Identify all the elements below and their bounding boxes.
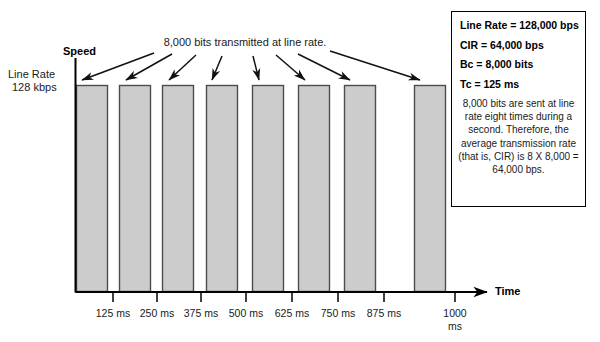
info-box-paragraph: 8,000 bits are sent at line rate eight t… [458,97,579,176]
x-tick-label-last-line2: ms [429,320,481,332]
x-tick-label: 875 ms [354,307,414,319]
callout-arrow [212,56,222,80]
info-box: Line Rate = 128,000 bps CIR = 64,000 bps… [451,11,586,207]
x-tick-label-last-line1: 1000 [429,307,481,319]
x-axis-title: Time [495,285,520,298]
info-line-tc: Tc = 125 ms [460,78,579,90]
callout-arrow [253,56,259,80]
info-line-line-rate: Line Rate = 128,000 bps [460,19,579,31]
bar [345,86,376,292]
x-axis-ticks [113,292,455,302]
callout-text: 8,000 bits transmitted at line rate. [125,36,365,49]
info-line-cir: CIR = 64,000 bps [460,39,579,51]
info-line-bc: Bc = 8,000 bits [460,58,579,70]
bar [415,86,446,292]
callout-arrows [82,51,420,80]
bar-series [77,86,446,292]
bar [163,86,194,292]
frame-relay-cir-diagram: Speed Line Rate 128 kbps Time 8,000 bits… [0,0,600,342]
y-axis-value-line2: 128 kbps [12,81,57,94]
bar [299,86,330,292]
y-axis-title: Speed [63,45,96,58]
callout-arrow [126,54,172,80]
bar [77,86,108,292]
callout-arrow [169,55,196,80]
callout-arrow [330,51,420,80]
bar [120,86,151,292]
bar [253,86,284,292]
callout-arrow [276,55,305,80]
y-axis-value-line1: Line Rate [8,68,55,81]
callout-arrow [298,54,350,80]
bar [207,86,238,292]
